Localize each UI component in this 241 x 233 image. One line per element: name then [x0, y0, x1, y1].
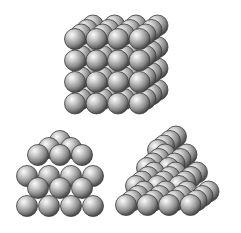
sphere	[50, 178, 71, 199]
sphere-packing-svg	[0, 0, 241, 233]
sphere	[50, 145, 71, 166]
sphere	[108, 93, 129, 114]
sphere	[129, 29, 150, 50]
sphere	[86, 29, 107, 50]
sphere	[108, 29, 129, 50]
sphere	[17, 196, 38, 217]
sphere	[108, 50, 129, 71]
sphere	[72, 178, 93, 199]
sphere	[116, 195, 137, 216]
sphere	[86, 93, 107, 114]
sphere	[65, 93, 86, 114]
square-pyramid-stack	[17, 131, 104, 217]
sphere	[159, 195, 180, 216]
sphere	[86, 72, 107, 93]
sphere	[108, 72, 129, 93]
sphere	[86, 50, 107, 71]
sphere	[65, 29, 86, 50]
sphere	[180, 195, 201, 216]
simple-cubic-stack	[65, 15, 169, 114]
sphere	[129, 50, 150, 71]
sphere	[65, 72, 86, 93]
sphere	[129, 72, 150, 93]
sphere	[61, 196, 82, 217]
sphere	[65, 50, 86, 71]
sphere	[28, 145, 49, 166]
sphere	[39, 196, 60, 217]
sphere	[28, 178, 49, 199]
sphere	[129, 93, 150, 114]
triangular-pyramid-stack	[116, 126, 220, 216]
sphere	[83, 196, 104, 217]
sphere-packing-diagram	[0, 0, 241, 233]
sphere	[137, 195, 158, 216]
sphere	[72, 145, 93, 166]
